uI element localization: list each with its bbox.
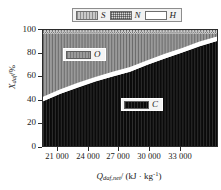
y-axis-label-subscript: daf: [10, 75, 17, 83]
y-axis-label: Xdaf/%: [7, 47, 17, 107]
plot-area: O C: [42, 29, 218, 147]
annotation-swatch-c-icon: [124, 101, 149, 109]
y-tick-label-100: 100: [12, 25, 36, 34]
figure-container: S N H 100 80 60 40 20 0 Xdaf/%: [0, 0, 221, 190]
annotation-carbon: C: [121, 98, 163, 111]
chart-legend: S N H: [72, 8, 182, 22]
annotation-label-o: O: [92, 50, 104, 59]
area-band-s: [43, 30, 217, 32]
annotation-label-c: C: [150, 100, 161, 109]
annotation-swatch-o-icon: [66, 51, 91, 59]
legend-entry-h: H: [144, 9, 180, 21]
legend-entry-s: S: [75, 9, 109, 21]
y-tick-label-0: 0: [12, 142, 36, 151]
area-band-n: [43, 32, 217, 34]
annotation-oxygen: O: [63, 48, 106, 61]
legend-entry-n: N: [109, 9, 144, 21]
x-axis-label-unit: / (kJ · kg: [121, 171, 153, 181]
y-axis-label-symbol: X: [7, 83, 17, 89]
legend-label-n: N: [133, 11, 144, 20]
x-axis-label-close: ): [159, 171, 162, 181]
x-axis-label: Qdaf,net/ (kJ · kg-1): [34, 170, 221, 181]
x-tick-label-33000: 33 000: [158, 152, 202, 161]
y-axis-label-unit: /%: [7, 65, 17, 75]
legend-label-s: S: [99, 11, 109, 20]
y-tick-mark-0: [38, 147, 42, 148]
legend-swatch-s-icon: [76, 11, 98, 20]
legend-swatch-n-icon: [110, 11, 132, 20]
x-axis-label-subscript: daf,net: [103, 174, 121, 181]
legend-swatch-h-icon: [145, 11, 167, 20]
y-tick-label-20: 20: [12, 118, 36, 127]
legend-label-h: H: [168, 11, 180, 20]
